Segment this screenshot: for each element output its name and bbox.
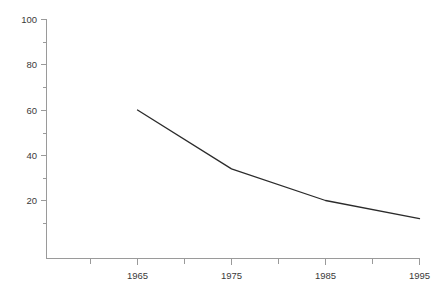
- y-axis-label-80: 80: [26, 59, 37, 70]
- y-axis-label-40: 40: [26, 150, 37, 161]
- x-axis-label-1985: 1985: [315, 270, 336, 281]
- line-chart: 100 80 60 40 20 1965 1975 1985 1995: [0, 0, 444, 299]
- y-axis-label-20: 20: [26, 195, 37, 206]
- x-axis-label-1965: 1965: [127, 270, 148, 281]
- x-axis-label-1995: 1995: [409, 270, 430, 281]
- y-axis-label-60: 60: [26, 105, 37, 116]
- chart-canvas: 100 80 60 40 20 1965 1975 1985 1995: [0, 0, 444, 299]
- chart-background: [0, 0, 444, 299]
- x-axis-label-1975: 1975: [221, 270, 242, 281]
- y-axis-label-100: 100: [21, 14, 37, 25]
